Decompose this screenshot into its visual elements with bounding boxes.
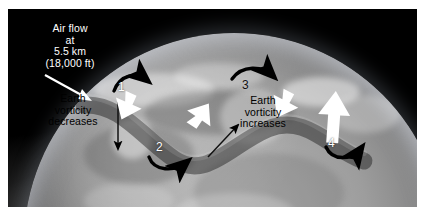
altitude-caption: Air flow at 5.5 km (18,000 ft): [22, 23, 118, 69]
spin-arrow-2: [149, 157, 188, 169]
spin-arrow-3: [232, 68, 274, 79]
wave-number-4: 4: [328, 137, 335, 149]
flow-arrow-2: [182, 96, 221, 135]
satellite-air-flow-figure: Air flow at 5.5 km (18,000 ft) Earth vor…: [8, 9, 417, 207]
wave-number-1: 1: [118, 81, 125, 93]
flow-arrow-1: [109, 88, 146, 125]
wave-number-3: 3: [242, 79, 249, 91]
vorticity-increases-label: Earth vorticity increases: [230, 95, 296, 130]
wave-number-2: 2: [156, 141, 163, 153]
vorticity-decreases-label: Earth vorticity decreases: [40, 93, 106, 128]
vorticity-increases-arrow: [208, 125, 238, 157]
